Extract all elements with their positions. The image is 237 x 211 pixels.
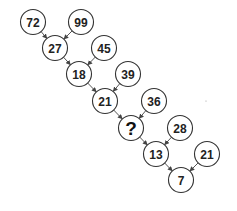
node-label: 27 <box>48 42 62 56</box>
number-node: 21 <box>93 89 118 114</box>
number-node: 36 <box>142 89 167 114</box>
stray-dot <box>205 100 206 101</box>
node-label: 72 <box>26 16 40 30</box>
number-chain-diagram: 7299274518392136?2813217 <box>0 0 237 211</box>
node-label: 99 <box>74 16 88 30</box>
arrow-d-to-e <box>88 57 95 65</box>
number-node: 99 <box>69 10 94 35</box>
arrow-j-to-k <box>165 137 172 144</box>
number-node: 45 <box>92 36 117 61</box>
arrow-a-to-c <box>41 32 47 39</box>
number-node: 27 <box>43 36 68 61</box>
number-node: 39 <box>116 62 141 87</box>
node-label: 18 <box>72 68 86 82</box>
arrow-e-to-g <box>88 83 96 92</box>
question-mark-label: ? <box>125 118 137 139</box>
number-node: 21 <box>195 142 220 167</box>
arrow-c-to-e <box>63 57 70 64</box>
unknown-number-node: ? <box>119 116 144 141</box>
node-label: 21 <box>98 95 112 109</box>
number-node: 28 <box>168 116 193 141</box>
arrow-l-to-m <box>190 163 198 171</box>
nodes-layer: 7299274518392136?2813217 <box>21 10 220 193</box>
arrow-f-to-g <box>113 84 119 92</box>
node-label: 7 <box>178 174 185 188</box>
number-node: 13 <box>144 142 169 167</box>
number-node: 18 <box>67 62 92 87</box>
node-label: 21 <box>200 148 214 162</box>
node-label: 36 <box>147 95 161 109</box>
number-node: 72 <box>21 10 46 35</box>
arrow-g-to-i <box>114 110 122 119</box>
arrow-b-to-c <box>64 31 72 39</box>
arrow-h-to-i <box>139 111 145 119</box>
number-node: 7 <box>169 168 194 193</box>
node-label: 13 <box>149 148 163 162</box>
node-label: 28 <box>173 122 187 136</box>
node-label: 45 <box>97 42 111 56</box>
arrow-k-to-m <box>165 163 172 171</box>
arrow-i-to-k <box>140 137 147 145</box>
node-label: 39 <box>121 68 135 82</box>
